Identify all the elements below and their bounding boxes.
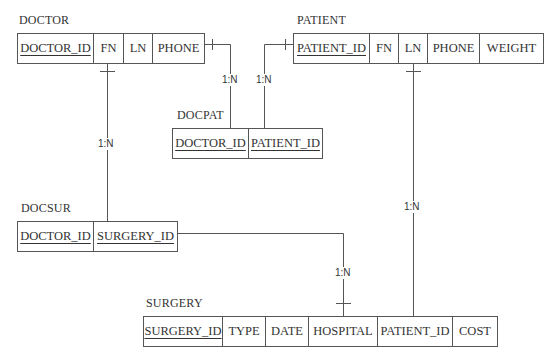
column-phone: PHONE — [153, 34, 204, 63]
column-fn: FN — [370, 34, 399, 63]
column-ln: LN — [124, 34, 153, 63]
table-patient: PATIENT_ID FN LN PHONE WEIGHT — [293, 33, 544, 64]
table-title-patient: PATIENT — [297, 13, 346, 28]
table-title-docpat: DOCPAT — [177, 108, 224, 123]
cardinality-surgery-docsur: 1:N — [334, 267, 352, 279]
column-doctor-id: DOCTOR_ID — [18, 34, 94, 63]
figure-caption-cutoff — [148, 354, 493, 361]
cardinality-patient-docpat: 1:N — [255, 74, 273, 86]
table-doctor: DOCTOR_ID FN LN PHONE — [17, 33, 205, 64]
column-doctor-id: DOCTOR_ID — [173, 129, 249, 158]
table-title-surgery: SURGERY — [146, 296, 203, 311]
column-surgery-id: SURGERY_ID — [94, 222, 177, 251]
column-surgery-id: SURGERY_ID — [144, 317, 223, 346]
table-title-docsur: DOCSUR — [21, 201, 71, 216]
table-docsur: DOCTOR_ID SURGERY_ID — [17, 221, 178, 252]
column-patient-id: PATIENT_ID — [249, 129, 322, 158]
cardinality-doctor-docsur: 1:N — [97, 138, 115, 150]
column-hospital: HOSPITAL — [309, 317, 378, 346]
column-type: TYPE — [223, 317, 266, 346]
column-doctor-id: DOCTOR_ID — [18, 222, 94, 251]
column-fn: FN — [94, 34, 124, 63]
column-weight: WEIGHT — [480, 34, 543, 63]
table-docpat: DOCTOR_ID PATIENT_ID — [172, 128, 323, 159]
column-patient-id: PATIENT_ID — [294, 34, 370, 63]
column-cost: COST — [453, 317, 497, 346]
column-patient-id: PATIENT_ID — [378, 317, 453, 346]
line-patient-docpat — [265, 45, 294, 129]
table-title-doctor: DOCTOR — [19, 13, 69, 28]
column-date: DATE — [266, 317, 309, 346]
cardinality-doctor-docpat: 1:N — [221, 74, 239, 86]
cardinality-patient-surgery: 1:N — [403, 201, 421, 213]
column-ln: LN — [399, 34, 428, 63]
table-surgery: SURGERY_ID TYPE DATE HOSPITAL PATIENT_ID… — [143, 316, 498, 347]
column-phone: PHONE — [428, 34, 480, 63]
